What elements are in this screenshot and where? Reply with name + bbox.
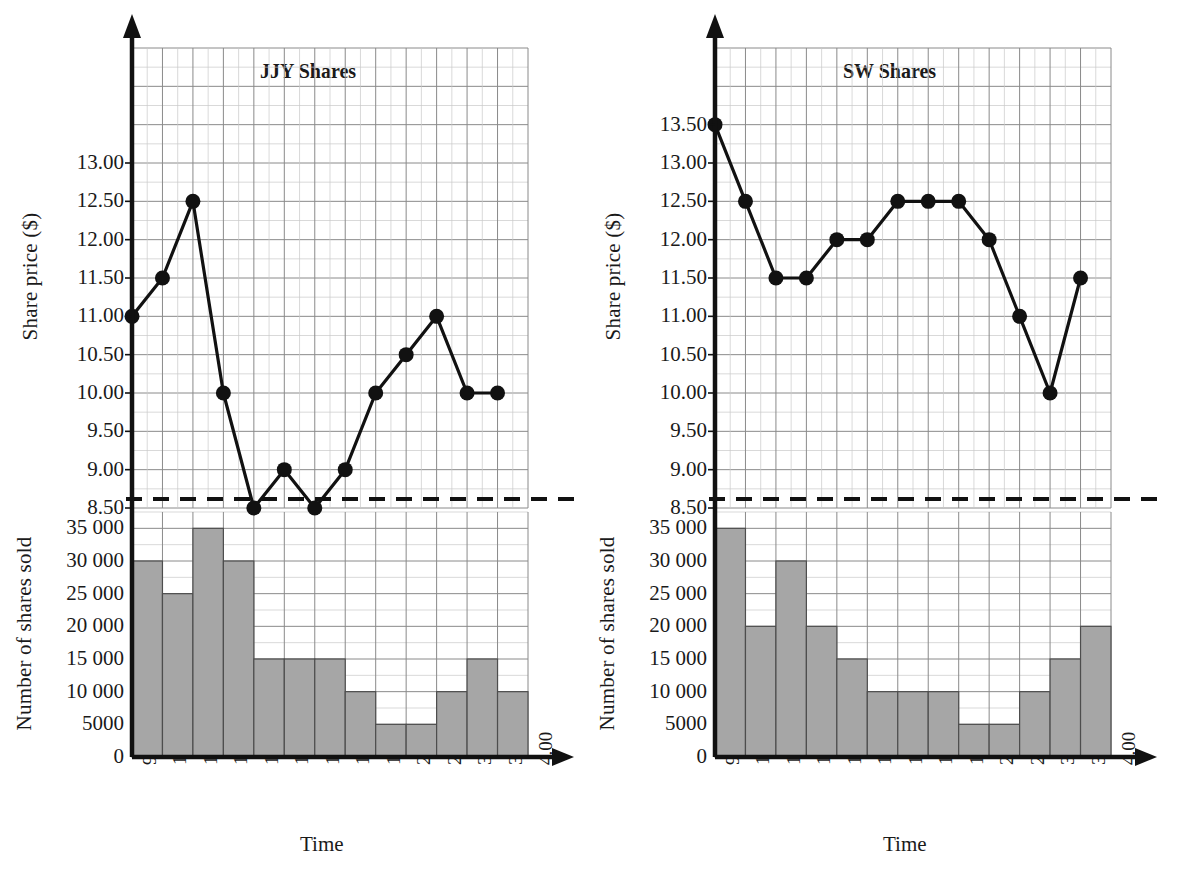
panel-sw-shares: SW Shares Share price ($) Number of shar… [597, 0, 1194, 872]
dual-share-chart-figure: JJY Shares Share price ($) Number of sha… [0, 0, 1194, 872]
plot-area-sw [597, 0, 1194, 872]
plot-area-jjy [0, 0, 597, 872]
panel-jjy-shares: JJY Shares Share price ($) Number of sha… [0, 0, 597, 872]
x-axis-label-time: Time [883, 832, 927, 857]
x-axis-label-time: Time [300, 832, 344, 857]
